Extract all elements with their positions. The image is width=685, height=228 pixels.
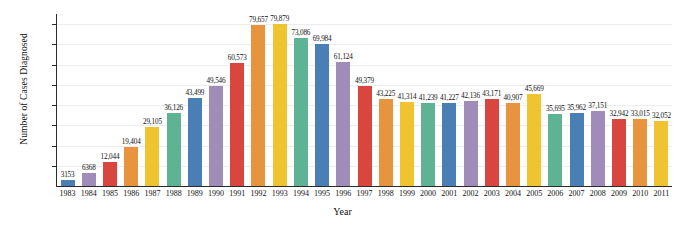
x-axis-title: Year [0,206,685,217]
bar[interactable] [209,86,223,186]
bar-value-label: 60,573 [228,54,247,62]
bar[interactable] [188,98,202,186]
bar-value-label: 41,227 [440,94,459,102]
bar-slot: 43,171 [485,8,499,186]
bar-value-label: 45,669 [525,85,544,93]
bar-value-label: 37,151 [588,102,607,110]
bar-value-label: 36,126 [164,104,183,112]
bar[interactable] [612,119,626,186]
bar-slot: 49,379 [358,8,372,186]
bar-value-label: 73,086 [291,29,310,37]
bar-value-label: 43,225 [376,90,395,98]
bar[interactable] [379,99,393,186]
bar-value-label: 35,962 [567,104,586,112]
bar-slot: 35,962 [570,8,584,186]
bar-slot: 79,657 [251,8,265,186]
bar[interactable] [400,102,414,186]
bar[interactable] [591,111,605,186]
bar[interactable] [315,44,329,186]
bar[interactable] [145,127,159,186]
bar-slot: 41,239 [421,8,435,186]
bar-slot: 45,669 [527,8,541,186]
bar-value-label: 43,171 [482,90,501,98]
bar-value-label: 6368 [82,164,96,172]
bar-value-label: 35,695 [546,105,565,113]
bar[interactable] [485,99,499,186]
bar-value-label: 12,044 [101,153,120,161]
bar-value-label: 42,136 [461,92,480,100]
bar[interactable] [82,173,96,186]
bar-value-label: 19,404 [122,138,141,146]
bar-slot: 29,105 [145,8,159,186]
bar-slot: 49,546 [209,8,223,186]
bar-value-label: 41,239 [419,94,438,102]
bar[interactable] [358,86,372,186]
bar-value-label: 43,499 [185,89,204,97]
bar[interactable] [167,113,181,186]
bar-value-label: 69,984 [313,35,332,43]
bar-value-label: 61,124 [334,53,353,61]
bar-series: 3153636812,04419,40429,10536,12643,49949… [57,8,672,186]
bar[interactable] [527,94,541,186]
bar-slot: 3153 [61,8,75,186]
bar-slot: 35,695 [548,8,562,186]
x-axis-line [56,186,672,187]
bar-value-label: 79,879 [270,15,289,23]
bar-slot: 12,044 [103,8,117,186]
bar[interactable] [421,103,435,186]
bar-slot: 42,136 [464,8,478,186]
bar[interactable] [548,114,562,186]
bar-value-label: 3153 [61,171,75,179]
bar-value-label: 32,052 [652,112,671,120]
bar-slot: 43,225 [379,8,393,186]
bar[interactable] [61,180,75,186]
bar-value-label: 49,546 [207,77,226,85]
plot-area: 80,00070,00060,00050,00040,00030,00020,0… [57,8,672,186]
bar-slot: 73,086 [294,8,308,186]
bar-value-label: 49,379 [355,77,374,85]
bar[interactable] [103,162,117,186]
x-axis-tick-label: 2011 [646,189,676,198]
bar[interactable] [464,101,478,186]
bar-slot: 61,124 [336,8,350,186]
bar-slot: 43,499 [188,8,202,186]
bar[interactable] [570,113,584,186]
bar-slot: 60,573 [230,8,244,186]
bar-slot: 19,404 [124,8,138,186]
bar-slot: 79,879 [273,8,287,186]
bar[interactable] [442,103,456,186]
bar-value-label: 33,015 [631,110,650,118]
bar-slot: 41,227 [442,8,456,186]
bar[interactable] [230,63,244,186]
bar[interactable] [251,25,265,186]
x-axis-ticks: 1983198419851986198719881989199019911992… [57,189,672,205]
bar-slot: 36,126 [167,8,181,186]
bar-slot: 33,015 [633,8,647,186]
y-axis-title: Number of Cases Diagnosed [19,0,29,179]
bar-slot: 32,942 [612,8,626,186]
bar-value-label: 41,314 [397,93,416,101]
bar[interactable] [633,119,647,186]
bar-value-label: 29,105 [143,118,162,126]
bar-chart-figure: Number of Cases Diagnosed 80,00070,00060… [0,0,685,228]
bar-slot: 41,314 [400,8,414,186]
bar[interactable] [654,121,668,186]
bar-value-label: 32,942 [610,110,629,118]
bar[interactable] [336,62,350,186]
bar[interactable] [273,24,287,186]
bar-slot: 40,907 [506,8,520,186]
bar[interactable] [506,103,520,186]
bar-slot: 6368 [82,8,96,186]
bar-slot: 32,052 [654,8,668,186]
bar-value-label: 79,657 [249,16,268,24]
bar[interactable] [294,38,308,186]
bar-slot: 37,151 [591,8,605,186]
bar[interactable] [124,147,138,186]
bar-slot: 69,984 [315,8,329,186]
bar-value-label: 40,907 [504,94,523,102]
